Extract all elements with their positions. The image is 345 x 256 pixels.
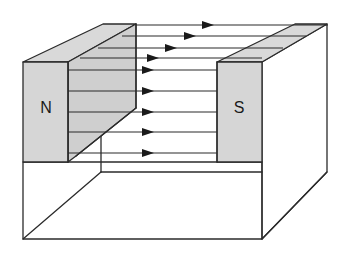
magnetic-field-diagram: N S bbox=[0, 0, 345, 256]
north-magnet: N bbox=[23, 24, 136, 162]
south-pole-label: S bbox=[234, 99, 245, 116]
south-magnet: S bbox=[217, 24, 327, 162]
field-arrow-icon bbox=[142, 66, 154, 74]
field-arrow-icon bbox=[142, 108, 154, 116]
field-arrow-icon bbox=[142, 128, 154, 136]
field-arrow-icon bbox=[184, 32, 196, 40]
north-pole-label: N bbox=[40, 99, 52, 116]
floor-diagonal-edge bbox=[23, 172, 101, 239]
field-arrow-icon bbox=[202, 21, 214, 29]
south-magnet-top-face bbox=[217, 24, 327, 62]
field-arrow-icon bbox=[142, 149, 154, 157]
field-arrow-icon bbox=[165, 44, 177, 52]
field-arrow-icon bbox=[147, 54, 159, 62]
field-arrow-icon bbox=[142, 87, 154, 95]
right-bottom-diagonal-edge bbox=[262, 172, 327, 239]
box-front-face bbox=[23, 162, 262, 239]
